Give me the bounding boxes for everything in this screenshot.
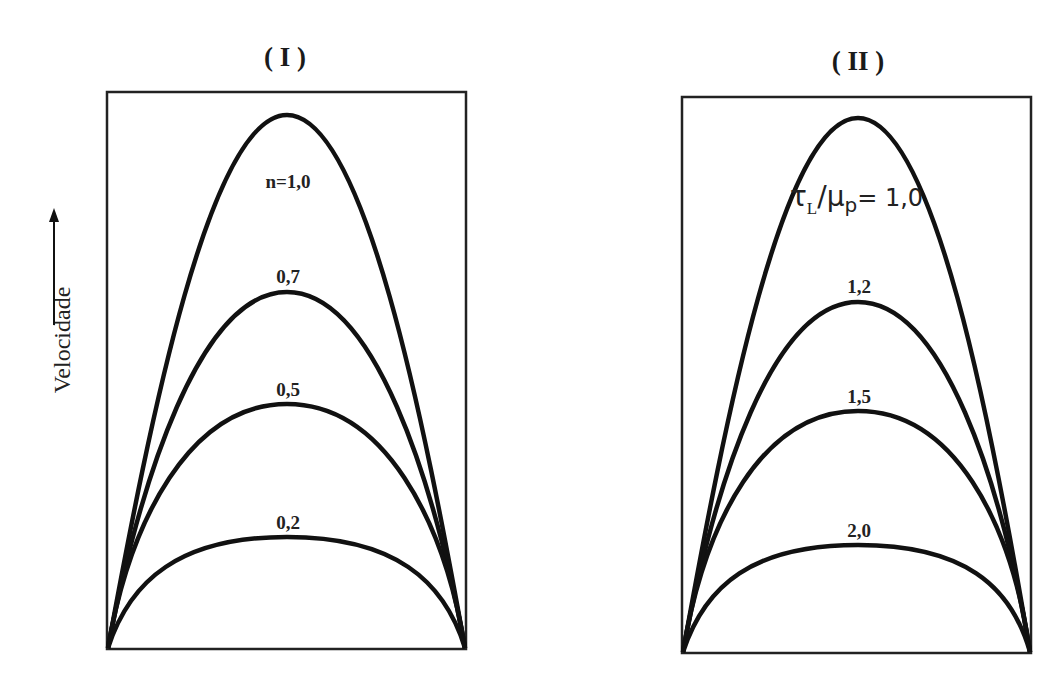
label-n-0-5: 0,5 <box>276 379 300 400</box>
label-n-1-0: n=1,0 <box>265 171 310 192</box>
panel-right: τL/μp= 1,0 1,2 1,5 2,0 <box>682 97 1031 653</box>
label-tau-ratio: τL/μp= 1,0 <box>790 180 923 218</box>
label-tau-1-5: 1,5 <box>847 386 871 407</box>
chart-canvas: n=1,0 0,7 0,5 0,2 τL/μp= 1,0 1,2 1,5 2,0 <box>0 0 1059 683</box>
label-n-0-7: 0,7 <box>276 266 300 287</box>
curve-n-0-2 <box>108 537 465 648</box>
label-tau-2-0: 2,0 <box>847 520 871 541</box>
panel-left: n=1,0 0,7 0,5 0,2 <box>107 92 466 649</box>
label-tau-1-2: 1,2 <box>847 276 871 297</box>
up-arrow-icon <box>49 208 59 325</box>
curve-n-0-7 <box>108 292 465 648</box>
label-n-0-2: 0,2 <box>276 512 300 533</box>
curve-tau-1-2 <box>683 302 1030 652</box>
curve-tau-2-0 <box>683 545 1030 652</box>
